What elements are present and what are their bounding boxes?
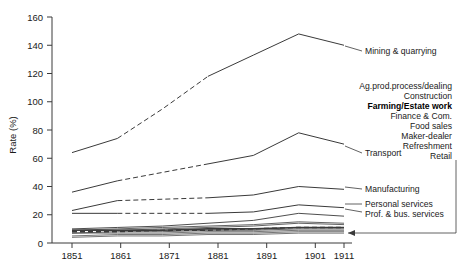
x-tick-label-1861: 1861 [110, 250, 131, 261]
annotation-mining: Mining & quarrying [365, 46, 437, 56]
y-tick-label-0: 0 [38, 238, 43, 249]
annotation-transport: Transport [365, 148, 402, 158]
series-line-manufacturing [72, 201, 117, 211]
chart-svg: 160 140 120 100 80 60 40 20 0 Rate (%) 1… [0, 0, 469, 274]
series-line-personal-services [208, 205, 344, 213]
annotation-profbus: Prof. & bus. services [365, 209, 444, 219]
y-tick-label-60: 60 [32, 153, 43, 164]
y-tick-label-140: 140 [27, 40, 43, 51]
leader-bundle-arrowhead [348, 230, 355, 236]
annotation-retail: Retail [430, 151, 452, 161]
series-line-transport [72, 181, 117, 192]
series-line-manufacturing [208, 187, 344, 198]
series-line-mining-quarrying [72, 138, 117, 152]
x-axis: 1851 1861 1871 1881 1891 1901 1911 [52, 243, 354, 261]
series-layer [72, 34, 344, 237]
annotation-labels: Mining & quarrying Ag.prod.process/deali… [359, 46, 452, 219]
line-chart: 160 140 120 100 80 60 40 20 0 Rate (%) 1… [0, 0, 469, 274]
y-tick-label-120: 120 [27, 68, 43, 79]
y-tick-label-80: 80 [32, 125, 43, 136]
series-line-transport [208, 133, 344, 164]
y-tick-label-100: 100 [27, 96, 43, 107]
leader-manufacturing [345, 187, 362, 189]
annotation-farming: Farming/Estate work [367, 101, 452, 111]
annotation-manufacturing: Manufacturing [365, 184, 420, 194]
x-tick-label-1871: 1871 [159, 250, 180, 261]
series-line-prof-bus-services [72, 213, 344, 229]
series-line-mining-quarrying [117, 76, 208, 138]
leader-bundle-bracket [348, 160, 456, 233]
x-tick-label-1901: 1901 [305, 250, 326, 261]
series-line-mining-quarrying [208, 34, 344, 76]
y-axis-title: Rate (%) [7, 116, 18, 153]
y-tick-label-160: 160 [27, 12, 43, 23]
y-tick-label-40: 40 [32, 181, 43, 192]
annotation-finance: Finance & Com. [390, 111, 452, 121]
annotation-refreshment: Refreshment [403, 141, 453, 151]
y-axis: 160 140 120 100 80 60 40 20 0 Rate (%) [7, 12, 52, 249]
annotation-makerdealer: Maker-dealer [401, 131, 452, 141]
x-tick-label-1851: 1851 [61, 250, 82, 261]
x-tick-label-1911: 1911 [334, 250, 354, 261]
x-tick-label-1891: 1891 [256, 250, 277, 261]
annotation-personal: Personal services [365, 199, 433, 209]
leader-mining [345, 46, 362, 51]
x-tick-label-1881: 1881 [207, 250, 228, 261]
leader-transport [345, 146, 362, 153]
series-line-manufacturing [117, 198, 208, 201]
leader-profbus [345, 209, 362, 212]
y-tick-label-20: 20 [32, 209, 43, 220]
series-line-retail [72, 233, 344, 237]
annotation-foodsales: Food sales [410, 121, 452, 131]
series-line-transport [117, 164, 208, 181]
annotation-agprod: Ag.prod.process/dealing [359, 81, 452, 91]
annotation-construction: Construction [404, 91, 452, 101]
